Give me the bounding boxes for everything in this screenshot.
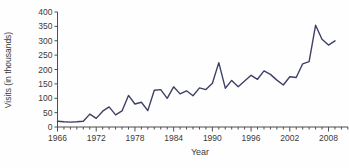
y-tick-label: 100 [38, 93, 52, 103]
y-tick-label: 150 [38, 79, 52, 89]
x-tick-label: 1984 [164, 133, 183, 143]
y-tick-label: 300 [38, 36, 52, 46]
visits-line-chart: 050100150200250300350400 196619721978198… [0, 0, 349, 168]
y-axis-title: Visits (in thousands) [3, 32, 13, 109]
visits-line-chart-figure: 050100150200250300350400 196619721978198… [0, 0, 349, 168]
data-line [58, 25, 336, 122]
y-tick-label: 200 [38, 65, 52, 75]
x-tick-label: 1966 [48, 133, 67, 143]
x-tick-label: 2002 [280, 133, 299, 143]
x-tick-label: 2008 [319, 133, 338, 143]
x-tick-label: 1990 [203, 133, 222, 143]
x-tick-label: 1972 [87, 133, 106, 143]
y-tick-label: 350 [38, 21, 52, 31]
data-series [58, 25, 336, 122]
y-tick-label: 250 [38, 50, 52, 60]
x-tick-label: 1996 [242, 133, 261, 143]
y-axis: 050100150200250300350400 [38, 7, 57, 132]
y-tick-label: 0 [48, 122, 53, 132]
x-axis: 19661972197819841990199620022008 [48, 127, 348, 143]
y-tick-label: 50 [43, 108, 53, 118]
x-axis-title: Year [191, 147, 209, 157]
x-tick-label: 1978 [125, 133, 144, 143]
y-tick-label: 400 [38, 7, 52, 17]
